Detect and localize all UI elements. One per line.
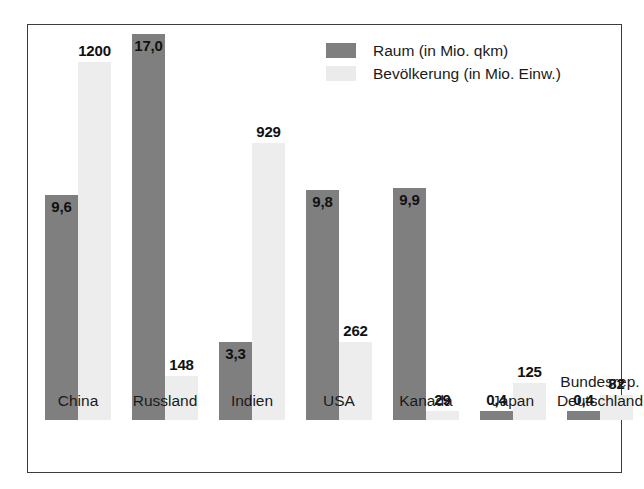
bar-value-raum-indien: 3,3	[225, 345, 245, 362]
bar-value-bevoelkerung-usa: 262	[343, 322, 367, 339]
bar-raum-bundesrep-deutschland[interactable]: 0,4	[567, 411, 600, 420]
bar-bevoelkerung-kanada[interactable]: 29	[426, 411, 459, 420]
legend-swatch-raum-icon	[326, 43, 356, 58]
bar-value-bevoelkerung-russland: 148	[169, 356, 193, 373]
plot-area: Raum (in Mio. qkm) Bevölkerung (in Mio. …	[28, 25, 621, 472]
chart-frame: Raum (in Mio. qkm) Bevölkerung (in Mio. …	[27, 24, 622, 473]
bar-raum-japan[interactable]: 0,4	[480, 411, 513, 420]
bar-value-raum-kanada: 9,9	[399, 191, 419, 208]
bar-raum-kanada[interactable]: 9,9	[393, 188, 426, 420]
bar-raum-usa[interactable]: 9,8	[306, 190, 339, 420]
bar-bevoelkerung-china[interactable]: 1200	[78, 62, 111, 420]
legend-item-raum: Raum (in Mio. qkm)	[326, 39, 561, 62]
chart-legend: Raum (in Mio. qkm) Bevölkerung (in Mio. …	[326, 39, 561, 85]
bar-value-raum-russland: 17,0	[134, 37, 162, 54]
bar-value-raum-china: 9,6	[51, 198, 71, 215]
bar-value-bevoelkerung-china: 1200	[78, 42, 111, 59]
bar-value-bevoelkerung-indien: 929	[256, 123, 280, 140]
legend-label-raum: Raum (in Mio. qkm)	[373, 42, 508, 60]
legend-swatch-bevoelkerung-icon	[326, 66, 356, 81]
bar-value-raum-usa: 9,8	[312, 193, 332, 210]
bar-raum-china[interactable]: 9,6	[45, 195, 78, 420]
legend-item-bevoelkerung: Bevölkerung (in Mio. Einw.)	[326, 62, 561, 85]
bar-raum-russland[interactable]: 17,0	[132, 34, 165, 420]
category-label-bundesrep-deutschland: Bundesrep. Deutschland	[535, 372, 644, 410]
legend-label-bevoelkerung: Bevölkerung (in Mio. Einw.)	[373, 65, 561, 83]
bar-bevoelkerung-indien[interactable]: 929	[252, 143, 285, 420]
